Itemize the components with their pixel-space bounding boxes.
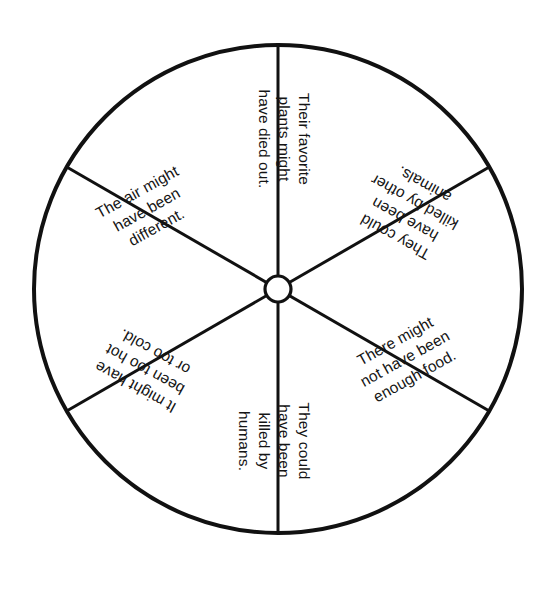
- worksheet-page: The air might have been different. Their…: [0, 0, 548, 596]
- spinner-wheel-graphic: [0, 0, 548, 596]
- wheel-center-hub[interactable]: [265, 276, 291, 302]
